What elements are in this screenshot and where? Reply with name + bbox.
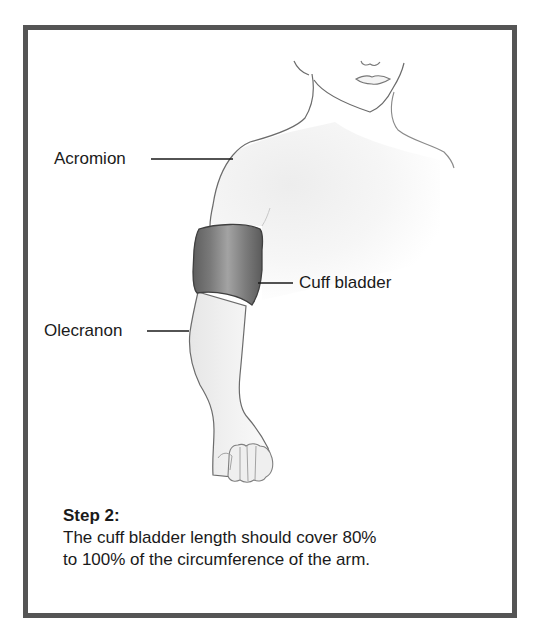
face-jaw [314, 63, 404, 112]
fist [228, 444, 273, 483]
label-cuff-bladder: Cuff bladder [299, 273, 391, 293]
nose [361, 61, 380, 65]
figure-caption: Step 2: The cuff bladder length should c… [63, 505, 483, 571]
face-jaw-left [294, 61, 309, 75]
caption-step-heading: Step 2: [63, 505, 483, 527]
lips [356, 76, 390, 84]
cuff-bladder [193, 224, 263, 305]
label-olecranon: Olecranon [44, 321, 122, 341]
caption-text-line-2: to 100% of the circumference of the arm. [63, 549, 483, 571]
label-acromion: Acromion [54, 149, 126, 169]
caption-text-line-1: The cuff bladder length should cover 80% [63, 527, 483, 549]
